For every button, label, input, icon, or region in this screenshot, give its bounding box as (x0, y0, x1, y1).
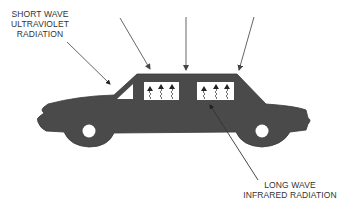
incoming-sun-rays (120, 17, 254, 70)
long-wave-ir-label: LONG WAVE INFRARED RADIATION (238, 180, 342, 200)
ray-arrow-left (120, 18, 150, 69)
ir-label-line-1: LONG WAVE (238, 180, 342, 190)
uv-leader-arrow (67, 42, 110, 84)
ir-label-line-2: INFRARED RADIATION (238, 190, 342, 200)
uv-label-line-3: RADIATION (2, 29, 78, 39)
car-greenhouse-diagram: SHORT WAVE ULTRAVIOLET RADIATION LONG WA… (0, 0, 348, 213)
uv-label-line-2: ULTRAVIOLET (2, 19, 78, 29)
ray-arrow-right (239, 17, 254, 70)
uv-label-line-1: SHORT WAVE (2, 9, 78, 19)
short-wave-uv-label: SHORT WAVE ULTRAVIOLET RADIATION (2, 9, 78, 39)
rear-wheel-hub (83, 125, 96, 138)
front-wheel-hub (256, 125, 269, 138)
